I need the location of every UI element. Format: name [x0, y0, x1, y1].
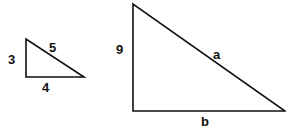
small-hypotenuse-label: 5 [49, 41, 56, 54]
triangles-diagram [0, 0, 286, 127]
large-right-triangle [133, 4, 285, 111]
small-vertical-label: 3 [8, 53, 15, 66]
large-vertical-label: 9 [116, 43, 123, 56]
large-horizontal-label: b [201, 115, 209, 127]
small-horizontal-label: 4 [42, 81, 49, 94]
large-hypotenuse-label: a [213, 48, 220, 61]
